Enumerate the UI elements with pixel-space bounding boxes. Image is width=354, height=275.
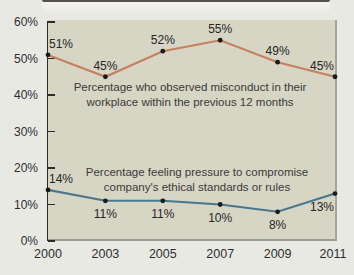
x-tick-label: 2011 <box>320 247 347 261</box>
annotation-line: company's ethical standards or rules <box>86 180 308 195</box>
observed-misconduct-value-label: 45% <box>310 59 334 73</box>
observed-misconduct-value-label: 55% <box>208 22 232 36</box>
y-tick-label: 50% <box>0 52 38 66</box>
y-tick-label: 0% <box>0 234 38 248</box>
observed-misconduct-marker <box>218 38 223 43</box>
pressure-to-compromise-marker <box>275 209 280 214</box>
series-pressure-annotation: Percentage feeling pressure to compromis… <box>86 165 308 195</box>
pressure-to-compromise-marker <box>333 191 338 196</box>
annotation-line: Percentage who observed misconduct in th… <box>74 80 307 95</box>
x-tick-label: 2005 <box>149 247 177 261</box>
x-tick-label: 2007 <box>206 247 234 261</box>
pressure-to-compromise-marker <box>103 198 108 203</box>
pressure-to-compromise-value-label: 8% <box>269 218 286 232</box>
y-tick-label: 20% <box>0 161 38 175</box>
observed-misconduct-marker <box>333 74 338 79</box>
pressure-to-compromise-marker <box>218 202 223 207</box>
chart-series-canvas <box>48 22 335 241</box>
pressure-to-compromise-value-label: 11% <box>94 207 117 221</box>
y-tick-label: 30% <box>0 125 38 139</box>
x-tick-label: 2009 <box>264 247 292 261</box>
x-tick-label: 2003 <box>91 247 119 261</box>
observed-misconduct-value-label: 51% <box>49 37 73 51</box>
observed-misconduct-marker <box>275 60 280 65</box>
line-chart-figure: 60%50%40%30%20%10%0% 2000200320052007200… <box>0 0 354 275</box>
y-tick-label: 60% <box>0 15 38 29</box>
observed-misconduct-value-label: 49% <box>266 44 290 58</box>
observed-misconduct-value-label: 45% <box>93 59 117 73</box>
pressure-to-compromise-value-label: 10% <box>208 211 232 225</box>
annotation-line: workplace within the previous 12 months <box>74 95 307 110</box>
cropped-element-edge <box>42 2 330 14</box>
series-misconduct-annotation: Percentage who observed misconduct in th… <box>74 80 307 110</box>
pressure-to-compromise-marker <box>160 198 165 203</box>
y-tick-label: 10% <box>0 198 38 212</box>
observed-misconduct-marker <box>103 74 108 79</box>
annotation-line: Percentage feeling pressure to compromis… <box>86 165 308 180</box>
observed-misconduct-line <box>48 40 335 77</box>
pressure-to-compromise-value-label: 14% <box>49 172 73 186</box>
pressure-to-compromise-value-label: 13% <box>310 200 334 214</box>
pressure-to-compromise-marker <box>46 188 51 193</box>
x-tick-label: 2000 <box>34 247 62 261</box>
observed-misconduct-marker <box>46 52 51 57</box>
observed-misconduct-marker <box>160 49 165 54</box>
y-tick-label: 40% <box>0 88 38 102</box>
observed-misconduct-value-label: 52% <box>151 33 175 47</box>
pressure-to-compromise-value-label: 11% <box>151 207 174 221</box>
